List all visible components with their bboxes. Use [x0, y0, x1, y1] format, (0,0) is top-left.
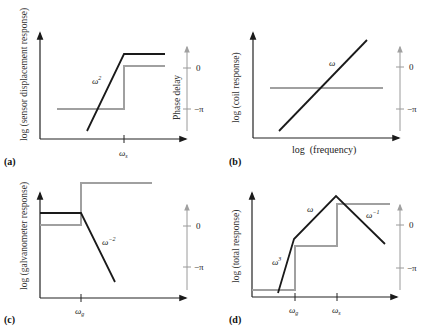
amplitude-curve [40, 213, 115, 282]
y-axis-label: log (galvanometer response) [19, 182, 30, 290]
phase-tick-label-minus-pi: −π [407, 104, 417, 114]
panel-d: ωg ωs ω3 ω ω−1 log (total response) 0 −π… [229, 193, 417, 326]
phase-tick-label-0: 0 [409, 220, 414, 230]
x-tick-label-omega-g: ωg [289, 305, 298, 316]
phase-tick-label-minus-pi: −π [194, 104, 204, 114]
phase-axis-label: Phase delay [172, 75, 182, 120]
amplitude-curve [279, 40, 367, 131]
slope-label-omega: ω [307, 204, 313, 214]
slope-label-omega-minus-1: ω−1 [366, 209, 379, 220]
x-axis-label: log (frequency) [292, 144, 356, 156]
panel-label-d: (d) [229, 314, 241, 326]
x-tick-label-omega-s: ωs [119, 148, 128, 159]
slope-label-omega-3: ω3 [272, 256, 281, 267]
phase-tick-label-0: 0 [196, 221, 201, 231]
phase-tick-label-minus-pi: −π [194, 262, 204, 272]
slope-label-omega: ω [329, 58, 335, 68]
phase-tick-label-minus-pi: −π [407, 263, 417, 273]
slope-label-omega-minus-2: ω−2 [102, 236, 115, 247]
phase-tick-label-0: 0 [196, 63, 201, 73]
phase-tick-label-0: 0 [409, 62, 414, 72]
y-axis-label: log (coil response) [231, 52, 242, 123]
panel-c: ωg ω−2 log (galvanometer response) 0 −π … [4, 182, 204, 326]
x-tick-label-omega-g: ωg [75, 306, 84, 317]
y-axis-label: log (sensor displacement response) [19, 8, 30, 141]
figure: ωs ω2 log (sensor displacement response)… [0, 0, 436, 332]
panel-a: ωs ω2 log (sensor displacement response)… [4, 8, 204, 168]
panel-label-b: (b) [229, 156, 241, 168]
y-axis-label: log (total response) [231, 210, 242, 283]
panel-b: ω log (frequency) log (coil response) 0 … [229, 33, 417, 168]
phase-curve [40, 183, 152, 225]
panel-label-a: (a) [4, 156, 16, 168]
panel-label-c: (c) [4, 314, 15, 326]
x-tick-label-omega-s: ωs [332, 305, 341, 316]
slope-label-omega-2: ω2 [92, 75, 101, 86]
phase-curve [57, 66, 165, 109]
